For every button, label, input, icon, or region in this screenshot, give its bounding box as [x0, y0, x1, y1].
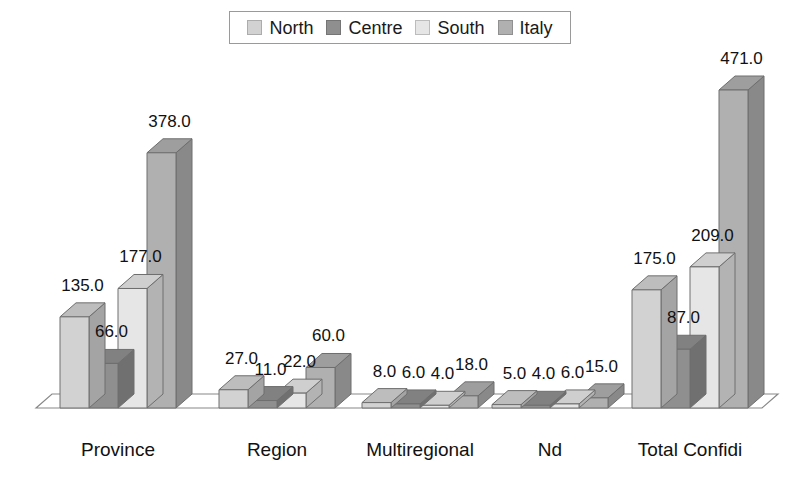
value-label-total-confidi-centre: 87.0	[667, 309, 700, 326]
value-label-total-confidi-south: 209.0	[691, 227, 734, 244]
bar-total-confidi-north-front	[632, 290, 661, 408]
value-label-nd-italy: 15.0	[585, 358, 618, 375]
value-label-province-north: 135.0	[61, 277, 104, 294]
value-label-multiregional-north: 8.0	[373, 363, 397, 380]
category-label-region: Region	[247, 440, 307, 459]
bar-province-north-side	[89, 303, 105, 408]
category-label-province: Province	[81, 440, 155, 459]
bar-multiregional-south-front	[420, 405, 449, 408]
value-label-nd-north: 5.0	[503, 365, 527, 382]
value-label-province-centre: 66.0	[95, 323, 128, 340]
bar-region-north-front	[219, 390, 248, 408]
value-label-nd-south: 6.0	[561, 364, 585, 381]
category-label-nd: Nd	[538, 440, 562, 459]
value-label-multiregional-centre: 6.0	[402, 364, 426, 381]
category-label-multiregional: Multiregional	[366, 440, 474, 459]
bar-province-north-front	[60, 317, 89, 408]
bar-province-south-side	[147, 274, 163, 408]
value-label-total-confidi-north: 175.0	[633, 250, 676, 267]
value-label-region-north: 27.0	[225, 350, 258, 367]
bar-total-confidi-italy-side	[748, 76, 764, 408]
bar-province-italy-side	[176, 139, 192, 408]
value-label-province-italy: 378.0	[148, 113, 191, 130]
bar-nd-centre-front	[521, 405, 550, 408]
value-label-nd-centre: 4.0	[532, 365, 556, 382]
value-label-region-italy: 60.0	[312, 327, 345, 344]
bar-nd-north-front	[492, 405, 521, 408]
value-label-multiregional-italy: 18.0	[455, 356, 488, 373]
chart-container: North Centre South Italy 135.066.0177.03…	[0, 0, 801, 486]
category-label-total-confidi: Total Confidi	[638, 440, 743, 459]
value-label-province-south: 177.0	[119, 248, 162, 265]
value-label-region-centre: 11.0	[255, 361, 287, 378]
value-label-total-confidi-italy: 471.0	[720, 50, 763, 67]
bar-multiregional-north-front	[362, 403, 391, 408]
bars-svg	[0, 0, 801, 486]
plot-area	[0, 0, 801, 486]
bar-total-confidi-south-side	[719, 253, 735, 408]
bar-total-confidi-north-side	[661, 276, 677, 408]
value-label-multiregional-south: 4.0	[431, 365, 455, 382]
value-label-region-south: 22.0	[283, 353, 316, 370]
